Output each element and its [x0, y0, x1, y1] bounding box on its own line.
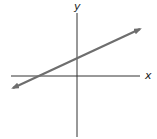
coordinate-plane [0, 0, 157, 139]
y-axis-label: y [74, 1, 81, 12]
x-axis-label: x [145, 70, 152, 81]
